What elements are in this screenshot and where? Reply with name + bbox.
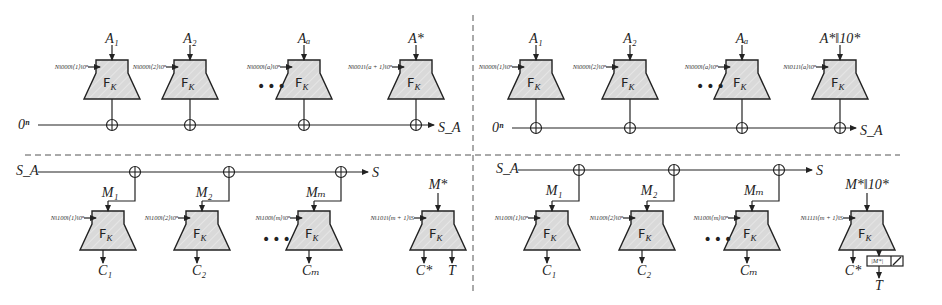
br-input-label-3: Mₘ <box>744 184 764 198</box>
tr-input-label-1: A₁ <box>529 32 542 46</box>
tl-output-label: S_A <box>438 121 461 135</box>
bl-ct-label-1: C₁ <box>98 264 112 278</box>
tl-input-label-4: A* <box>408 32 424 46</box>
xor-icon <box>737 123 748 134</box>
xor-icon <box>107 120 118 131</box>
bl-input-label-4: M* <box>429 178 448 192</box>
bl-ct-label-4: C* <box>416 264 432 278</box>
tl-tweak-label-3: N‖000‖⟨a⟩‖0ⁿ <box>247 64 280 71</box>
bl-input-label-2: M₂ <box>196 186 213 200</box>
br-input-label-2: M₂ <box>641 184 658 198</box>
tr-fk-label: FK <box>527 76 541 92</box>
br-tweak-label-1: N‖100‖⟨1⟩‖0ⁿ <box>495 215 528 222</box>
br-input-label-4: M*‖10* <box>845 178 889 192</box>
bl-fk-label: FK <box>99 227 113 243</box>
tr-tweak-label-3: N‖000‖⟨a⟩‖0ⁿ <box>685 64 718 71</box>
br-fk-label: FK <box>858 227 872 243</box>
tr-input-label-4: A*‖10* <box>820 32 860 46</box>
tl-tweak-label-1: N‖000‖⟨1⟩‖0ⁿ <box>55 64 88 71</box>
bl-tweak-label-3: N‖100‖⟨m⟩‖0ⁿ <box>255 215 290 222</box>
br-ct-label-3: Cₘ <box>740 264 758 278</box>
tl-input-label-3: Aₐ <box>298 32 311 46</box>
xor-icon <box>299 120 310 131</box>
bl-init-label: S_A <box>16 164 39 178</box>
xor-icon <box>574 165 585 176</box>
xor-icon <box>774 165 785 176</box>
br-tweak-label-2: N‖100‖⟨2⟩‖0ⁿ <box>590 215 623 222</box>
tl-fk-label: FK <box>181 76 195 92</box>
bl-ct-label-3: Cₘ <box>302 264 320 278</box>
bl-tag-label: T <box>448 264 456 278</box>
br-ct-label-2: C₂ <box>637 264 651 278</box>
br-output-label: S <box>816 164 823 178</box>
bl-ct-label-2: C₂ <box>192 264 206 278</box>
br-input-label-1: M₁ <box>546 184 563 198</box>
bl-fk-label: FK <box>193 227 207 243</box>
tr-input-label-3: Aₐ <box>736 32 749 46</box>
bl-fk-label: FK <box>429 227 443 243</box>
br-ellipsis: ••• <box>704 232 735 246</box>
bl-input-label-1: M₁ <box>102 186 119 200</box>
xor-icon <box>669 165 680 176</box>
br-ct-label-1: C₁ <box>542 264 556 278</box>
bl-ellipsis: ••• <box>262 232 293 246</box>
tl-fk-label: FK <box>407 76 421 92</box>
xor-icon <box>531 123 542 134</box>
xor-icon <box>625 123 636 134</box>
xor-icon <box>336 167 347 178</box>
tr-tweak-label-2: N‖000‖⟨2⟩‖0ⁿ <box>573 64 606 71</box>
tl-fk-label: FK <box>103 76 117 92</box>
tr-fk-label: FK <box>621 76 635 92</box>
bl-input-label-3: Mₘ <box>306 186 326 200</box>
tl-init-label: 0ⁿ <box>18 118 29 132</box>
bl-tweak-label-4: N‖101‖⟨m + 1⟩‖S <box>371 215 414 222</box>
xor-icon <box>130 167 141 178</box>
br-trunc-label: |M*| <box>871 258 883 265</box>
tl-tweak-label-2: N‖000‖⟨2⟩‖0ⁿ <box>133 64 166 71</box>
tr-tweak-label-4: N‖011‖⟨a⟩‖0ⁿ <box>783 64 816 71</box>
tl-input-label-1: A₁ <box>105 32 118 46</box>
tr-init-label: 0ⁿ <box>492 121 503 135</box>
bl-fk-label: FK <box>305 227 319 243</box>
tl-input-label-2: A₂ <box>183 32 196 46</box>
tr-output-label: S_A <box>860 124 883 138</box>
br-fk-label: FK <box>638 227 652 243</box>
br-ct-label-4: C* <box>845 264 861 278</box>
tl-fk-label: FK <box>295 76 309 92</box>
br-init-label: S_A <box>496 162 519 176</box>
br-tweak-label-4: N‖111‖⟨m + 1⟩‖S <box>801 215 844 222</box>
tr-fk-label: FK <box>831 76 845 92</box>
diagram-figure: 0ⁿS_AFKA₁N‖000‖⟨1⟩‖0ⁿFKA₂N‖000‖⟨2⟩‖0ⁿFKA… <box>0 0 942 305</box>
tr-fk-label: FK <box>733 76 747 92</box>
xor-icon <box>411 120 422 131</box>
bl-tweak-label-2: N‖100‖⟨2⟩‖0ⁿ <box>145 215 178 222</box>
bl-output-label: S <box>372 166 379 180</box>
xor-icon <box>185 120 196 131</box>
tr-tweak-label-1: N‖000‖⟨1⟩‖0ⁿ <box>479 64 512 71</box>
tl-ellipsis: ••• <box>257 79 288 93</box>
br-tag-label: T <box>875 279 883 293</box>
br-fk-label: FK <box>543 227 557 243</box>
tr-ellipsis: ••• <box>696 79 727 93</box>
xor-icon <box>835 123 846 134</box>
diagram-wires <box>0 0 942 305</box>
bl-tweak-label-1: N‖100‖⟨1⟩‖0ⁿ <box>51 215 84 222</box>
tl-tweak-label-4: N‖001‖⟨a + 1⟩‖0ⁿ <box>348 64 392 71</box>
br-fk-label: FK <box>743 227 757 243</box>
br-tweak-label-3: N‖100‖⟨m⟩‖0ⁿ <box>693 215 728 222</box>
xor-icon <box>224 167 235 178</box>
tr-input-label-2: A₂ <box>623 32 636 46</box>
